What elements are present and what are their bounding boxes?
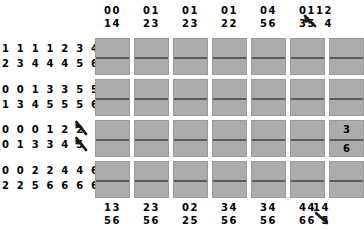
cell-r3-c7[interactable]: 3 6 [329,120,364,157]
cell-r1-c5[interactable] [251,38,286,75]
cell-r1-c6[interactable] [290,38,325,75]
cell-r1-c1[interactable] [95,38,130,75]
cell-r2-c3[interactable] [173,79,208,116]
top-header-col-3-line2: 23 [173,17,208,30]
cell-r2-c7[interactable] [329,79,364,116]
top-header-col-5: 04 56 [251,4,286,30]
top-header-col-2-line2: 23 [134,17,169,30]
top-header-col-1: 00 14 [95,4,130,30]
row-header-row-2-line1: 0 0 1 3 3 5 5 [2,82,90,97]
cell-r2-c1-bottom [96,98,129,116]
cell-r1-c3[interactable] [173,38,208,75]
cell-r1-c2[interactable] [134,38,169,75]
cell-r1-c2-top [135,39,168,57]
cell-r3-c6-top [291,121,324,139]
bottom-header-col-1-line1: 13 [95,201,130,214]
row-header-row-1-line1: 1 1 1 1 2 3 4 [2,41,90,56]
row-header-row-3-line1: 0 0 0 1 2 2 [2,122,90,137]
cell-r3-c2[interactable] [134,120,169,157]
cell-r3-c5-bottom [252,139,285,157]
cell-r3-c1[interactable] [95,120,130,157]
cell-r4-c7[interactable] [329,161,364,198]
top-header-col-7: 12 4 [300,4,336,30]
bottom-header-col-3-line1: 02 [173,201,208,214]
cell-r4-c1-top [96,162,129,180]
cell-r2-c4[interactable] [212,79,247,116]
bottom-header-col-1: 13 56 [95,201,130,227]
cell-r3-c7-top: 3 [330,121,363,139]
cell-r3-c2-bottom [135,139,168,157]
cell-r1-c3-top [174,39,207,57]
cell-r4-c4[interactable] [212,161,247,198]
cell-r4-c7-top [330,162,363,180]
cell-r1-c7-top [330,39,363,57]
cell-r4-c3-bottom [174,180,207,198]
cell-r1-c5-top [252,39,285,57]
cell-r2-c4-bottom [213,98,246,116]
top-header-col-5-line1: 04 [251,4,286,17]
row-header-row-4: 0 0 2 2 4 4 6 2 2 5 6 6 6 6 [2,163,90,193]
cell-r3-c1-top [96,121,129,139]
cell-r4-c5[interactable] [251,161,286,198]
top-header-col-5-line2: 56 [251,17,286,30]
cell-r3-c4[interactable] [212,120,247,157]
cell-r2-c2[interactable] [134,79,169,116]
cell-r4-c3[interactable] [173,161,208,198]
cell-r1-c4[interactable] [212,38,247,75]
row-header-row-1: 1 1 1 1 2 3 4 2 3 4 4 4 5 6 [2,41,90,71]
cell-r2-c7-top [330,80,363,98]
cell-r4-c2[interactable] [134,161,169,198]
cell-r4-c4-top [213,162,246,180]
cell-r4-c2-top [135,162,168,180]
bottom-header-col-2-line2: 56 [134,214,169,227]
cell-r3-c1-bottom [96,139,129,157]
cell-r2-c5-top [252,80,285,98]
bottom-header-col-4-line2: 56 [212,214,247,227]
top-header-col-4: 01 22 [212,4,247,30]
cell-r1-c6-top [291,39,324,57]
cell-r2-c3-bottom [174,98,207,116]
top-header-col-7-line1: 12 [300,4,333,17]
bottom-header-col-5-line1: 34 [251,201,286,214]
cell-r4-c6[interactable] [290,161,325,198]
cell-r4-c1-bottom [96,180,129,198]
cell-r3-c3[interactable] [173,120,208,157]
top-header-col-4-line1: 01 [212,4,247,17]
cell-r3-c6[interactable] [290,120,325,157]
cell-r3-c4-top [213,121,246,139]
bottom-header-col-2-line1: 23 [134,201,169,214]
row-header-row-1-line2: 2 3 4 4 4 5 6 [2,56,90,71]
bottom-header-col-3-line2: 25 [173,214,208,227]
cell-r2-c1-top [96,80,129,98]
cell-r2-c2-top [135,80,168,98]
row-header-row-4-line1: 0 0 2 2 4 4 6 [2,163,90,178]
cell-r4-c4-bottom [213,180,246,198]
cell-r1-c4-top [213,39,246,57]
cell-r4-c1[interactable] [95,161,130,198]
cell-r2-c1[interactable] [95,79,130,116]
bottom-header-col-5: 34 56 [251,201,286,227]
cell-r3-c3-bottom [174,139,207,157]
top-header-col-3-line1: 01 [173,4,208,17]
cell-r2-c5[interactable] [251,79,286,116]
top-header-col-2-line1: 01 [134,4,169,17]
cell-r1-c7[interactable] [329,38,364,75]
bottom-header-col-7-line2: 5 [297,214,330,227]
cell-r2-c2-bottom [135,98,168,116]
bottom-header-col-4: 34 56 [212,201,247,227]
bottom-header-col-3: 02 25 [173,201,208,227]
row-header-row-3: 0 0 0 1 2 2 0 1 3 3 4 5 [2,122,90,152]
cell-r4-c3-top [174,162,207,180]
cell-r4-c5-top [252,162,285,180]
cell-r2-c7-bottom [330,98,363,116]
top-header-col-3: 01 23 [173,4,208,30]
top-header-col-7-line2: 4 [300,17,333,30]
cell-r2-c6[interactable] [290,79,325,116]
row-header-row-4-line2: 2 2 5 6 6 6 6 [2,178,90,193]
cell-r4-c2-bottom [135,180,168,198]
cell-r3-c5[interactable] [251,120,286,157]
cell-r2-c6-top [291,80,324,98]
cell-r4-c7-bottom [330,180,363,198]
bottom-header-col-7-line1: 14 [297,201,330,214]
